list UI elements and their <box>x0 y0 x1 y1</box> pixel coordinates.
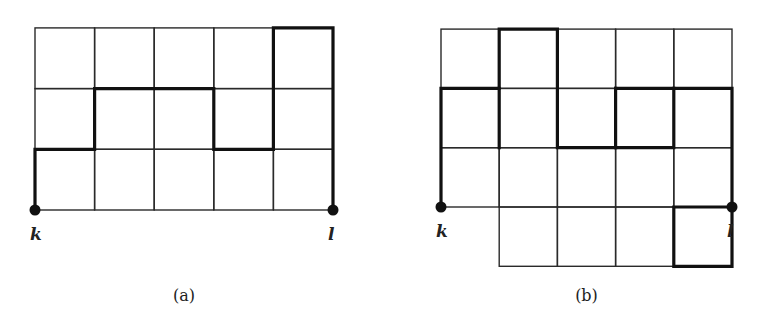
grid-cell <box>95 89 155 150</box>
grid-cell <box>499 88 557 147</box>
grid-cell <box>557 207 615 266</box>
grid-cell <box>95 28 155 89</box>
vertex-l <box>328 205 339 216</box>
grid-cell <box>499 207 557 266</box>
grid-cell <box>441 29 499 88</box>
grid-cell <box>214 89 274 150</box>
grid-cell <box>154 28 214 89</box>
grid-cell <box>499 29 557 88</box>
grid-cell <box>35 149 95 210</box>
grid-cell <box>273 89 333 150</box>
grid-cell <box>674 88 732 147</box>
grid-cell <box>499 148 557 207</box>
grid-cell <box>95 149 155 210</box>
diagram-canvas: kl(a) kl(b) <box>0 0 779 319</box>
grid-cell <box>557 29 615 88</box>
grid-cell <box>616 29 674 88</box>
grid-cell <box>616 207 674 266</box>
vertex-k <box>436 202 447 213</box>
grid-cell <box>214 28 274 89</box>
grid-cell <box>214 149 274 210</box>
grid-figure-b: kl(b) <box>436 29 738 305</box>
grid-cell <box>154 89 214 150</box>
grid-cell <box>616 88 674 147</box>
vertex-label-k: k <box>30 224 42 244</box>
vertex-k <box>30 205 41 216</box>
grid-cell <box>35 89 95 150</box>
grid-cell <box>557 148 615 207</box>
grid-cell <box>441 148 499 207</box>
grid-cell <box>441 88 499 147</box>
grid-cell <box>273 149 333 210</box>
grid-cell <box>674 29 732 88</box>
figure-caption: (a) <box>173 286 195 305</box>
grid-cell <box>154 149 214 210</box>
vertex-label-l: l <box>328 224 335 244</box>
bold-path <box>35 28 333 210</box>
grid-cell <box>273 28 333 89</box>
vertex-label-l: l <box>727 221 734 241</box>
vertex-l <box>727 202 738 213</box>
figure-caption: (b) <box>575 286 598 305</box>
grid-figure-a: kl(a) <box>30 28 339 305</box>
grid-cell <box>35 28 95 89</box>
grid-cell <box>674 207 732 266</box>
grid-cell <box>674 148 732 207</box>
grid-cell <box>616 148 674 207</box>
grid-cell <box>557 88 615 147</box>
vertex-label-k: k <box>436 221 448 241</box>
